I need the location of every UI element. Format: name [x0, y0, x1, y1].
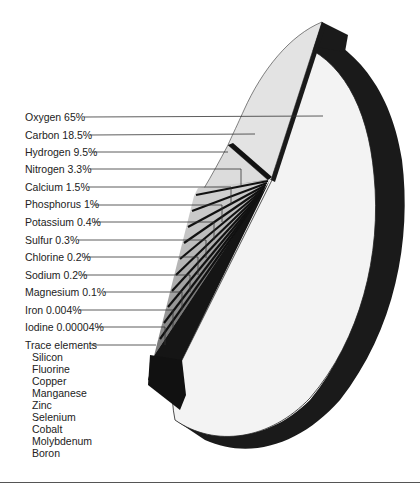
trace-molybdenum: Molybdenum: [32, 435, 92, 447]
label-potassium: Potassium 0.4%: [25, 216, 101, 228]
trace-fluorine: Fluorine: [32, 363, 70, 375]
label-calcium: Calcium 1.5%: [25, 181, 90, 193]
trace-copper: Copper: [32, 375, 66, 387]
bottom-divider: [0, 482, 420, 483]
label-iron: Iron 0.004%: [25, 304, 82, 316]
label-sulfur: Sulfur 0.3%: [25, 234, 79, 246]
trace-selenium: Selenium: [32, 411, 76, 423]
label-iodine: Iodine 0.00004%: [25, 321, 104, 333]
trace-silicon: Silicon: [32, 351, 63, 363]
trace-cobalt: Cobalt: [32, 423, 62, 435]
label-nitrogen: Nitrogen 3.3%: [25, 163, 92, 175]
trace-manganese: Manganese: [32, 387, 87, 399]
trace-zinc: Zinc: [32, 399, 52, 411]
label-trace-elements: Trace elements: [25, 339, 97, 351]
trace-boron: Boron: [32, 447, 60, 459]
label-sodium: Sodium 0.2%: [25, 269, 87, 281]
label-phosphorus: Phosphorus 1%: [25, 198, 99, 210]
label-oxygen: Oxygen 65%: [25, 111, 85, 123]
label-hydrogen: Hydrogen 9.5%: [25, 146, 97, 158]
label-carbon: Carbon 18.5%: [25, 129, 92, 141]
label-chlorine: Chlorine 0.2%: [25, 251, 91, 263]
label-magnesium: Magnesium 0.1%: [25, 286, 106, 298]
